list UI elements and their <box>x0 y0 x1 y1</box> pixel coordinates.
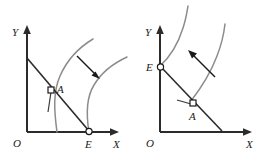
y-axis-arrowhead <box>156 25 164 34</box>
panel-left: Y X O A E <box>0 0 133 165</box>
y-axis-arrowhead <box>23 25 31 34</box>
point-e-marker <box>86 128 92 134</box>
panel-right-svg: Y X O E A <box>133 0 266 165</box>
point-a-label: A <box>188 110 196 122</box>
point-a-tick <box>177 100 191 104</box>
point-e-marker <box>157 64 163 70</box>
y-axis-label: Y <box>12 26 20 38</box>
panel-right: Y X O E A <box>133 0 266 165</box>
origin-label: O <box>146 137 154 149</box>
shift-arrow-shaft <box>77 56 96 75</box>
indifference-curve-outer <box>191 24 225 101</box>
point-a-label: A <box>56 83 64 95</box>
point-a-marker <box>190 100 196 106</box>
point-a-tick <box>48 92 51 112</box>
panel-left-svg: Y X O A E <box>0 0 133 165</box>
economics-figure: Y X O A E <box>0 0 267 165</box>
x-axis-arrowhead <box>243 128 252 136</box>
shift-arrow-shaft <box>193 55 215 77</box>
x-axis-label: X <box>112 138 121 150</box>
point-a-marker <box>48 87 54 93</box>
point-e-label: E <box>145 61 153 73</box>
indifference-curve-inner <box>160 6 188 66</box>
point-e-label: E <box>84 138 92 150</box>
origin-label: O <box>13 137 21 149</box>
x-axis-label: X <box>245 138 254 150</box>
x-axis-arrowhead <box>110 128 119 136</box>
y-axis-label: Y <box>145 26 153 38</box>
indifference-curve-outer <box>87 57 127 132</box>
